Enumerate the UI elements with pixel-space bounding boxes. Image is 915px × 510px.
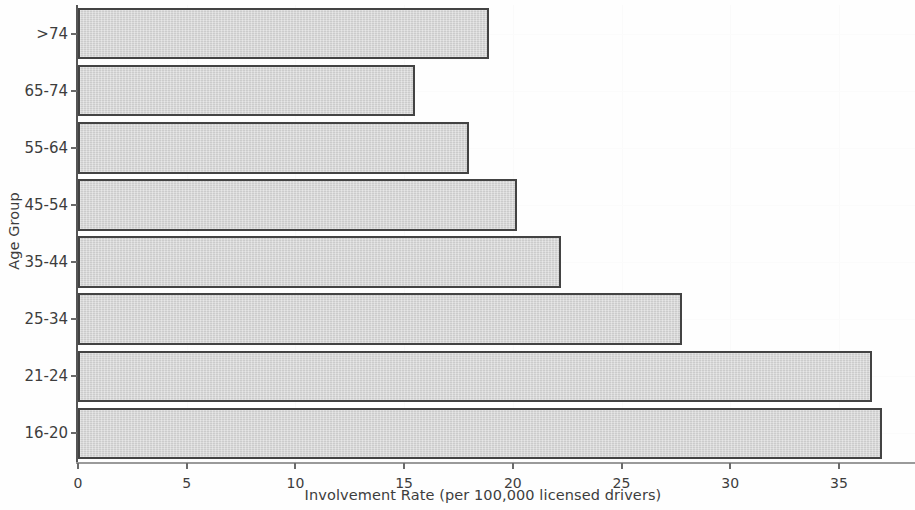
y-tick-label: 45-54: [24, 196, 68, 214]
x-tick: [838, 463, 840, 469]
bar: [78, 65, 415, 116]
y-tick-label: 55-64: [24, 139, 68, 157]
y-tick-label: 65-74: [24, 82, 68, 100]
y-tick-label: 21-24: [24, 367, 68, 385]
x-axis-title: Involvement Rate (per 100,000 licensed d…: [78, 487, 888, 503]
bar: [78, 122, 469, 173]
x-tick: [186, 463, 188, 469]
x-tick: [294, 463, 296, 469]
x-axis-spine: [76, 462, 915, 464]
y-axis-title-text: Age Group: [6, 192, 22, 270]
x-tick: [512, 463, 514, 469]
y-tick: [71, 33, 77, 35]
y-tick: [71, 147, 77, 149]
y-tick: [71, 204, 77, 206]
bar: [78, 179, 517, 230]
y-axis-title: Age Group: [0, 0, 28, 462]
x-tick: [621, 463, 623, 469]
y-tick-label: 25-34: [24, 310, 68, 328]
bar: [78, 351, 872, 402]
x-tick: [729, 463, 731, 469]
bar-chart-figure: Age Group 05101520253035 >7465-7455-6445…: [0, 0, 915, 510]
y-tick: [71, 432, 77, 434]
plot-area: 05101520253035 >7465-7455-6445-5435-4425…: [78, 5, 915, 462]
y-tick-label: 35-44: [24, 253, 68, 271]
x-tick: [77, 463, 79, 469]
bar: [78, 408, 882, 459]
bar: [78, 8, 489, 59]
y-tick: [71, 375, 77, 377]
y-tick: [71, 90, 77, 92]
y-tick-label: >74: [36, 25, 68, 43]
y-tick: [71, 318, 77, 320]
bar: [78, 236, 561, 287]
x-tick: [403, 463, 405, 469]
bar: [78, 293, 682, 344]
y-tick: [71, 261, 77, 263]
y-tick-label: 16-20: [24, 424, 68, 442]
